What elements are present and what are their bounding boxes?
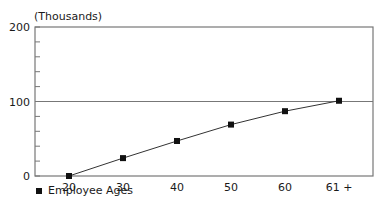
plot-area	[35, 27, 373, 176]
series-employee-ages	[66, 98, 342, 179]
series-line	[69, 101, 339, 176]
data-point-marker	[174, 138, 180, 144]
y-tick-label: 100	[9, 96, 30, 109]
data-point-marker	[66, 173, 72, 179]
y-axis-unit-label: (Thousands)	[34, 10, 102, 23]
y-tick-label: 200	[9, 21, 30, 34]
data-point-marker	[120, 155, 126, 161]
x-tick-label: 61 +	[326, 181, 353, 194]
data-point-marker	[228, 122, 234, 128]
x-tick-label: 60	[278, 181, 292, 194]
data-point-marker	[336, 98, 342, 104]
data-point-marker	[282, 108, 288, 114]
legend-marker-icon	[36, 188, 42, 194]
line-chart: (Thousands) 0100200 203040506061 +	[0, 0, 390, 213]
legend-label: Employee Ages	[48, 184, 133, 197]
y-tick-label: 0	[23, 170, 30, 183]
x-tick-label: 40	[170, 181, 184, 194]
x-tick-label: 50	[224, 181, 238, 194]
legend: Employee Ages	[36, 184, 133, 197]
